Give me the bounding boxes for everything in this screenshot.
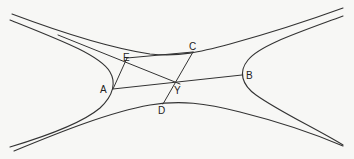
label-C: C [189,41,196,52]
label-B: B [246,70,253,81]
label-Y: Y [174,85,181,96]
label-A: A [100,84,107,95]
left-hyperbola-branch [10,20,113,147]
segment-CD [163,52,193,104]
right-hyperbola-branch [242,16,343,145]
hyperbola-diagram: A B C D E Y [0,0,354,159]
label-E: E [123,52,130,63]
upper-conjugate-branch [12,8,343,55]
lower-conjugate-branch [14,103,343,151]
label-D: D [158,105,165,116]
segment-EC [127,52,193,58]
